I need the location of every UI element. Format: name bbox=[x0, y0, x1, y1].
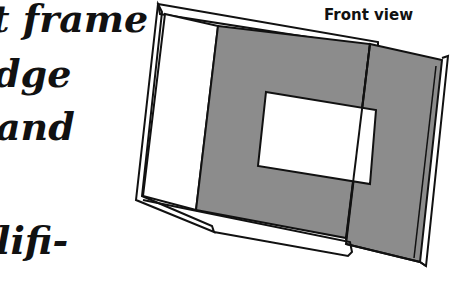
frame-illustration bbox=[0, 0, 451, 291]
illustration-caption: Front view bbox=[324, 6, 413, 24]
